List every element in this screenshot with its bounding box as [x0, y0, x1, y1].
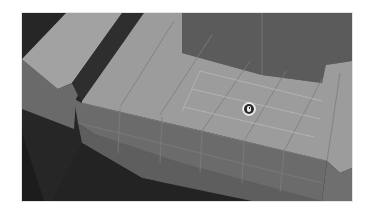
3d-viewport[interactable]: Mouse cursor — [22, 13, 352, 201]
mouse-cursor-icon: Mouse cursor — [242, 102, 256, 116]
cursor-inner — [244, 104, 254, 114]
scene-canvas[interactable] — [22, 13, 352, 201]
mouse-glyph — [247, 106, 251, 112]
